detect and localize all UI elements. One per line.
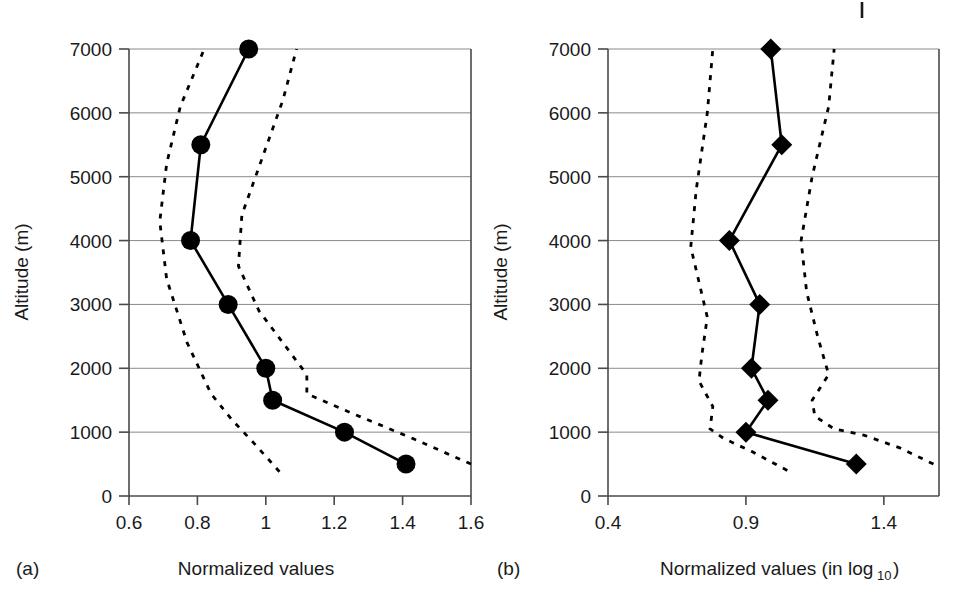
x-tick-label-1.6: 1.6 bbox=[458, 512, 484, 533]
x-tick-label-1: 1 bbox=[261, 512, 272, 533]
y-tick-label-0: 0 bbox=[580, 486, 591, 507]
panel-a-frame bbox=[129, 49, 471, 496]
panel-a-markers bbox=[181, 40, 415, 474]
panel-b: 0.40.91.4 01000200030004000500060007000 … bbox=[490, 39, 939, 584]
data-point-3000 bbox=[749, 294, 770, 315]
x-tick-label-0.6: 0.6 bbox=[116, 512, 142, 533]
data-point-2000 bbox=[741, 358, 762, 379]
y-tick-label-4000: 4000 bbox=[70, 231, 112, 252]
panel-b-x-tick-labels: 0.40.91.4 bbox=[595, 512, 898, 533]
y-tick-label-0: 0 bbox=[101, 486, 112, 507]
panel-b-frame bbox=[608, 49, 939, 496]
y-tick-label-6000: 6000 bbox=[70, 103, 112, 124]
panel-b-mean-line bbox=[729, 49, 856, 464]
data-point-5500 bbox=[191, 135, 210, 154]
panel-a-y-tick-labels: 01000200030004000500060007000 bbox=[70, 39, 112, 507]
x-tick-label-0.8: 0.8 bbox=[184, 512, 210, 533]
panel-b-markers bbox=[719, 39, 867, 475]
panel-a: 0.60.811.21.41.6 01000200030004000500060… bbox=[11, 39, 484, 579]
panel-a-gridlines bbox=[129, 49, 471, 432]
data-point-1000 bbox=[735, 422, 756, 443]
panel-b-label: (b) bbox=[497, 558, 520, 579]
panel-a-y-axis-title: Altitude (m) bbox=[11, 223, 32, 320]
y-tick-label-2000: 2000 bbox=[70, 358, 112, 379]
panel-b-gridlines bbox=[608, 49, 939, 432]
panel-a-mean-line bbox=[191, 49, 406, 464]
x-tick-label-0.9: 0.9 bbox=[733, 512, 759, 533]
y-tick-label-2000: 2000 bbox=[549, 358, 591, 379]
panel-a-label: (a) bbox=[16, 558, 39, 579]
data-point-7000 bbox=[760, 39, 781, 60]
data-point-2000 bbox=[256, 359, 275, 378]
panel-b-x-axis-title-main: Normalized values (in log bbox=[660, 558, 873, 579]
y-tick-label-5000: 5000 bbox=[549, 167, 591, 188]
y-tick-label-7000: 7000 bbox=[70, 39, 112, 60]
data-point-1000 bbox=[335, 423, 354, 442]
y-tick-label-5000: 5000 bbox=[70, 167, 112, 188]
panel-a-x-tickmarks bbox=[129, 496, 471, 505]
y-tick-label-3000: 3000 bbox=[549, 294, 591, 315]
data-point-5500 bbox=[771, 134, 792, 155]
figure-canvas: 0.60.811.21.41.6 01000200030004000500060… bbox=[0, 0, 966, 599]
data-point-4000 bbox=[719, 230, 740, 251]
x-tick-label-1.2: 1.2 bbox=[321, 512, 347, 533]
data-point-3000 bbox=[219, 295, 238, 314]
figure-two-panel-altitude-profiles: 0.60.811.21.41.6 01000200030004000500060… bbox=[0, 0, 966, 599]
panel-b-y-tickmarks bbox=[598, 49, 608, 496]
y-tick-label-3000: 3000 bbox=[70, 294, 112, 315]
panel-b-upper-band bbox=[801, 49, 933, 464]
y-tick-label-6000: 6000 bbox=[549, 103, 591, 124]
data-point-7000 bbox=[239, 40, 258, 59]
x-tick-label-1.4: 1.4 bbox=[389, 512, 416, 533]
data-point-500 bbox=[397, 455, 416, 474]
data-point-4000 bbox=[181, 231, 200, 250]
y-tick-label-7000: 7000 bbox=[549, 39, 591, 60]
y-tick-label-1000: 1000 bbox=[70, 422, 112, 443]
panel-a-x-axis-title: Normalized values bbox=[178, 558, 334, 579]
data-point-1500 bbox=[263, 391, 282, 410]
panel-b-x-axis-title-tail: ) bbox=[893, 558, 899, 579]
y-tick-label-4000: 4000 bbox=[549, 231, 591, 252]
panel-b-x-tickmarks bbox=[608, 496, 884, 505]
panel-b-x-axis-title-subscript: 10 bbox=[877, 568, 891, 583]
panel-a-y-tickmarks bbox=[119, 49, 129, 496]
panel-a-x-tick-labels: 0.60.811.21.41.6 bbox=[116, 512, 484, 533]
panel-b-y-tick-labels: 01000200030004000500060007000 bbox=[549, 39, 591, 507]
x-tick-label-1.4: 1.4 bbox=[871, 512, 898, 533]
x-tick-label-0.4: 0.4 bbox=[595, 512, 622, 533]
data-point-500 bbox=[846, 454, 867, 475]
panel-b-y-axis-title: Altitude (m) bbox=[490, 223, 511, 320]
data-point-1500 bbox=[757, 390, 778, 411]
y-tick-label-1000: 1000 bbox=[549, 422, 591, 443]
